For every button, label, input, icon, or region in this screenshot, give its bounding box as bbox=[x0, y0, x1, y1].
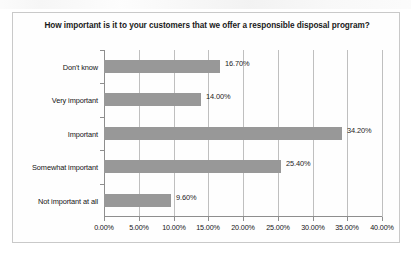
bar-4[interactable] bbox=[104, 194, 171, 207]
x-tick-5 bbox=[278, 217, 279, 221]
chart-title-line-1: How important is it to your customers th… bbox=[44, 21, 329, 30]
bar-value-label-0: 16.70% bbox=[225, 59, 249, 68]
bar-row[interactable]: 9.60% bbox=[104, 184, 382, 217]
plot-area: 16.70%14.00%34.20%25.40%9.60% bbox=[104, 50, 382, 217]
bar-row[interactable]: 25.40% bbox=[104, 150, 382, 183]
gridline-40-00% bbox=[382, 50, 383, 217]
chart-title: How important is it to your customers th… bbox=[37, 20, 377, 32]
bar-2[interactable] bbox=[104, 127, 342, 140]
bar-value-label-4: 9.60% bbox=[176, 193, 196, 202]
scan-artifact bbox=[0, 0, 411, 9]
bar-row[interactable]: 34.20% bbox=[104, 117, 382, 150]
y-tick-3 bbox=[100, 150, 104, 151]
bar-value-label-1: 14.00% bbox=[206, 92, 230, 101]
x-tick-2 bbox=[174, 217, 175, 221]
x-tick-4 bbox=[243, 217, 244, 221]
y-tick-1 bbox=[100, 83, 104, 84]
bar-row[interactable]: 14.00% bbox=[104, 83, 382, 116]
bar-1[interactable] bbox=[104, 93, 201, 106]
y-tick-top bbox=[100, 50, 104, 51]
x-tick-3 bbox=[208, 217, 209, 221]
bar-0[interactable] bbox=[104, 60, 220, 73]
bar-value-label-2: 34.20% bbox=[347, 126, 371, 135]
bar-3[interactable] bbox=[104, 160, 281, 173]
category-label-2: Important bbox=[13, 130, 98, 139]
category-label-3: Somewhat important bbox=[13, 163, 98, 172]
x-tick-1 bbox=[139, 217, 140, 221]
chart-title-line-2: program? bbox=[332, 21, 370, 30]
y-tick-4 bbox=[100, 184, 104, 185]
x-tick-label-8: 40.00% bbox=[360, 223, 404, 232]
y-tick-2 bbox=[100, 117, 104, 118]
chart-container: How important is it to your customers th… bbox=[12, 12, 400, 243]
category-label-0: Don't know bbox=[13, 63, 98, 72]
bar-value-label-3: 25.40% bbox=[286, 159, 310, 168]
x-tick-7 bbox=[347, 217, 348, 221]
bar-row[interactable]: 16.70% bbox=[104, 50, 382, 83]
x-tick-6 bbox=[313, 217, 314, 221]
x-tick-8 bbox=[382, 217, 383, 221]
category-label-4: Not important at all bbox=[13, 197, 98, 206]
x-tick-0 bbox=[104, 217, 105, 221]
category-label-1: Very important bbox=[13, 96, 98, 105]
